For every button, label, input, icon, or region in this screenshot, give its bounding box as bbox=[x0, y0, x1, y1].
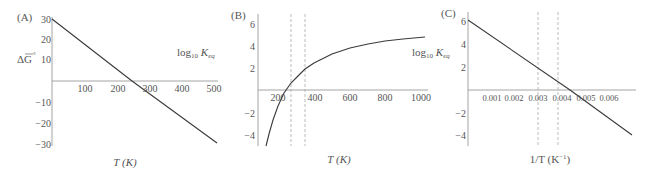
y-tick: −2 bbox=[244, 108, 255, 119]
panel-b-y-ticks: 6 4 2 −2 −4 bbox=[244, 19, 255, 141]
panel-c-logk-line bbox=[468, 20, 632, 135]
x-tick: 0.004 bbox=[552, 93, 572, 103]
y-tick: 30 bbox=[41, 14, 51, 25]
panel-b-label: (B) bbox=[231, 9, 246, 22]
x-tick: 0.003 bbox=[528, 93, 547, 103]
panel-a: (A) 30 20 10 −10 −20 −30 100 200 300 400… bbox=[17, 11, 222, 169]
x-tick: 800 bbox=[378, 92, 393, 103]
x-tick: 200 bbox=[111, 83, 126, 94]
x-tick: 600 bbox=[343, 92, 358, 103]
y-tick: −10 bbox=[35, 97, 51, 108]
y-label-text: ΔG bbox=[17, 53, 32, 65]
x-tick: 400 bbox=[308, 92, 323, 103]
panel-c-y-ticks: 6 4 2 −2 −4 bbox=[455, 16, 466, 141]
panel-b-y-label: log10 Keq bbox=[177, 46, 215, 60]
x-tick: 0.001 bbox=[482, 93, 501, 103]
y-tick: 4 bbox=[250, 41, 255, 52]
y-tick: −4 bbox=[244, 130, 255, 141]
x-tick: 500 bbox=[207, 83, 222, 94]
panel-c-label: (C) bbox=[441, 7, 456, 20]
x-tick: 0.002 bbox=[504, 93, 523, 103]
y-label-sup: ° bbox=[33, 51, 36, 59]
x-tick: 0.006 bbox=[599, 93, 618, 103]
y-tick: −20 bbox=[35, 118, 51, 129]
y-tick: 4 bbox=[461, 39, 466, 50]
panel-c-x-ticks: 0.001 0.002 0.003 0.004 0.005 0.006 bbox=[482, 93, 618, 103]
panel-b-x-ticks: 200 400 600 800 1000 bbox=[271, 92, 432, 103]
panel-c: (C) 6 4 2 −2 −4 0.001 0.002 0.003 0.004 … bbox=[412, 7, 636, 166]
x-tick: 300 bbox=[143, 83, 158, 94]
panel-a-y-label: ΔG ° bbox=[17, 51, 36, 65]
y-tick: 10 bbox=[41, 54, 51, 65]
x-tick: 100 bbox=[78, 83, 93, 94]
y-tick: 2 bbox=[461, 62, 466, 73]
y-tick: −2 bbox=[455, 108, 466, 119]
panel-a-x-label: T (K) bbox=[113, 156, 137, 169]
panel-c-x-label: 1/T (K−1) bbox=[530, 153, 571, 166]
x-tick: 1000 bbox=[411, 92, 431, 103]
panel-c-y-label: log10 Keq bbox=[412, 46, 450, 60]
figure: (A) 30 20 10 −10 −20 −30 100 200 300 400… bbox=[0, 0, 652, 180]
panel-b-x-label: T (K) bbox=[327, 153, 351, 166]
y-tick: 2 bbox=[250, 63, 255, 74]
panel-a-y-ticks: 30 20 10 −10 −20 −30 bbox=[35, 14, 51, 150]
y-tick: 20 bbox=[41, 34, 51, 45]
panel-a-label: (A) bbox=[17, 11, 33, 24]
panel-a-x-ticks: 100 200 300 400 500 bbox=[78, 83, 222, 94]
x-tick: 400 bbox=[175, 83, 190, 94]
y-tick: 6 bbox=[250, 19, 255, 30]
y-tick: −4 bbox=[455, 130, 466, 141]
y-tick: −30 bbox=[35, 139, 51, 150]
y-tick: 6 bbox=[461, 16, 466, 27]
